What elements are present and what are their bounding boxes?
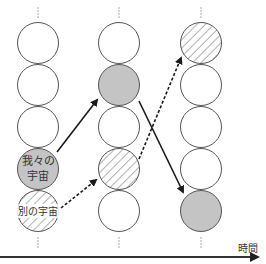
universe-circle <box>99 23 140 64</box>
universe-circle <box>18 65 59 106</box>
our-universe-label-line1: 我々の <box>22 155 55 168</box>
other-universe-label: 別の宇宙 <box>18 205 58 217</box>
solid-arrow-t1-to-t2 <box>57 100 97 152</box>
solid-arrow-t2-to-t3 <box>139 101 183 192</box>
time-axis-label: 時間 <box>238 243 258 254</box>
ellipsis-top-icon <box>200 7 201 17</box>
our-universe-label-line2: 宇宙 <box>27 169 49 183</box>
ellipsis-bottom-icon <box>200 237 201 247</box>
universe-circle-gray <box>181 191 222 232</box>
ellipsis-top-icon <box>37 7 38 17</box>
ellipsis-top-icon <box>118 7 119 17</box>
column-t3 <box>181 7 222 247</box>
universe-circle <box>181 107 222 148</box>
ellipsis-bottom-icon <box>37 237 38 247</box>
universe-circle <box>18 107 59 148</box>
universe-circle-hatched <box>181 23 222 64</box>
column-t1: 我々の 宇宙 別の宇宙 <box>17 7 59 247</box>
dashed-arrow-t1-to-t2 <box>61 180 96 208</box>
universe-circle <box>99 107 140 148</box>
column-t2 <box>99 7 140 247</box>
universe-circle <box>18 23 59 64</box>
universe-circle <box>181 65 222 106</box>
universe-circle-hatched <box>99 149 140 190</box>
multiverse-diagram: 我々の 宇宙 別の宇宙 <box>0 0 266 264</box>
universe-circle <box>181 149 222 190</box>
universe-circle-gray <box>99 65 140 106</box>
universe-circle <box>99 191 140 232</box>
ellipsis-bottom-icon <box>118 237 119 247</box>
